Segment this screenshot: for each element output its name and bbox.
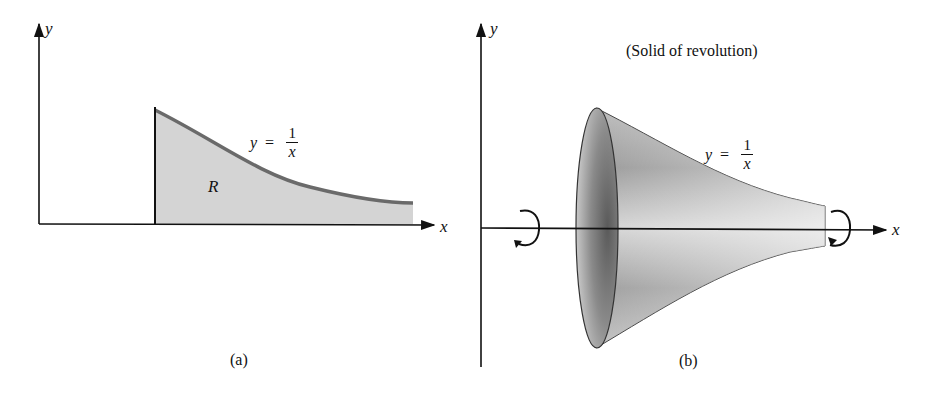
fraction: 1 x bbox=[286, 126, 298, 159]
y-axis-label-b: y bbox=[490, 20, 498, 37]
region-label: R bbox=[208, 178, 218, 195]
equation-equals: = bbox=[265, 134, 274, 152]
x-axis-a bbox=[39, 224, 434, 225]
equation-equals: = bbox=[720, 146, 729, 164]
panel-a-graph bbox=[39, 24, 434, 225]
fraction-denominator: x bbox=[744, 156, 751, 171]
y-axis-label-a: y bbox=[45, 20, 53, 37]
equation-label-b: y = 1 x bbox=[705, 138, 753, 171]
caption-b: (b) bbox=[679, 353, 698, 369]
fraction-numerator: 1 bbox=[288, 126, 296, 141]
x-axis-label-b: x bbox=[892, 221, 900, 238]
equation-lhs: y bbox=[250, 134, 257, 152]
fraction-numerator: 1 bbox=[743, 138, 751, 153]
panel-b-graph bbox=[481, 24, 886, 367]
caption-a: (a) bbox=[230, 352, 248, 368]
rotation-arrow-right-icon bbox=[828, 211, 850, 246]
fraction-denominator: x bbox=[289, 144, 296, 159]
x-axis-label-a: x bbox=[440, 218, 448, 235]
equation-label-a: y = 1 x bbox=[250, 126, 298, 159]
fraction: 1 x bbox=[741, 138, 753, 171]
diagram-canvas bbox=[0, 0, 925, 393]
equation-lhs: y bbox=[705, 146, 712, 164]
solid-title: (Solid of revolution) bbox=[626, 43, 758, 59]
rotation-arrow-left-icon bbox=[514, 210, 539, 248]
